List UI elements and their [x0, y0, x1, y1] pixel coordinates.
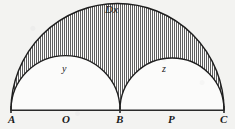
- label-z: z: [162, 64, 166, 74]
- label-Dx: Dx: [105, 4, 118, 15]
- label-point-P: P: [168, 114, 175, 125]
- arbelos-figure: Dx y z A O B P C: [0, 0, 235, 129]
- label-point-B: B: [116, 114, 124, 125]
- arbelos-diagram-canvas: [0, 0, 235, 129]
- label-point-O: O: [62, 114, 70, 125]
- label-y: y: [62, 64, 67, 74]
- label-point-A: A: [8, 114, 16, 125]
- label-point-C: C: [220, 114, 228, 125]
